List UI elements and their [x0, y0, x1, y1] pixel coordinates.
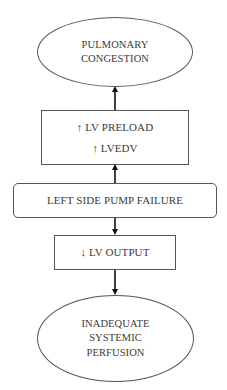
node-text-line: PERFUSION [86, 346, 144, 360]
node-lv-preload: ↑ LV PRELOAD ↑ LVEDV [41, 110, 189, 165]
node-text-line: INADEQUATE [81, 317, 149, 331]
node-lv-output: ↓ LV OUTPUT [54, 235, 176, 270]
node-text-line: ↓ LV OUTPUT [81, 245, 150, 260]
node-text-line: CONGESTION [81, 52, 149, 66]
node-left-side-pump-failure: LEFT SIDE PUMP FAILURE [13, 183, 217, 218]
node-inadequate-systemic-perfusion: INADEQUATE SYSTEMIC PERFUSION [37, 295, 194, 382]
node-text-line: SYSTEMIC [89, 331, 142, 345]
node-text-line: PULMONARY [82, 38, 149, 52]
node-text-line: LEFT SIDE PUMP FAILURE [47, 193, 183, 208]
node-pulmonary-congestion: PULMONARY CONGESTION [37, 17, 193, 87]
node-text-line: ↑ LVEDV [92, 138, 137, 159]
node-text-line: ↑ LV PRELOAD [77, 117, 153, 138]
